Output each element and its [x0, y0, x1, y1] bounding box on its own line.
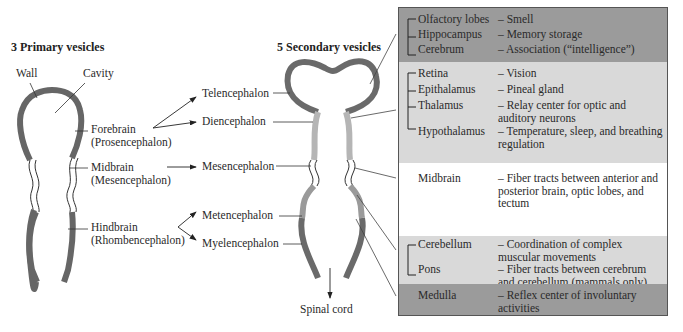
function-reflex: – Reflex center of involuntary activitie…: [498, 289, 663, 314]
cavity-label: Cavity: [83, 67, 114, 80]
midbrain-label: Midbrain: [91, 161, 134, 174]
primary-vesicle-tube: [20, 90, 81, 289]
structure-cerebrum: Cerebrum: [418, 43, 464, 56]
function-coordination: – Coordination of complex muscular movem…: [498, 238, 663, 263]
bracket-icon: [405, 18, 417, 58]
wall-label: Wall: [16, 67, 37, 80]
adult-structures-table: Olfactory lobes – Smell Hippocampus – Me…: [398, 7, 668, 316]
function-memory: – Memory storage: [498, 28, 663, 41]
section-telencephalon: Olfactory lobes – Smell Hippocampus – Me…: [399, 8, 667, 62]
structure-hypothalamus: Hypothalamus: [418, 125, 485, 138]
spinal-cord-label: Spinal cord: [300, 303, 353, 316]
hindbrain-label: Hindbrain: [91, 221, 138, 234]
function-pineal: – Pineal gland: [498, 83, 663, 96]
mesencephalon-label: Mesencephalon: [202, 160, 274, 173]
structure-hippocampus: Hippocampus: [418, 28, 482, 41]
section-myelencephalon: Medulla – Reflex center of involuntary a…: [399, 284, 667, 315]
structure-thalamus: Thalamus: [418, 99, 463, 112]
midbrain-latin-label: (Mesencephalon): [91, 174, 171, 187]
forebrain-label: Forebrain: [91, 123, 136, 136]
function-relay: – Relay center for optic and auditory ne…: [498, 99, 663, 124]
function-association: – Association (“intelligence”): [498, 43, 663, 56]
section-metencephalon: Cerebellum – Coordination of complex mus…: [399, 236, 667, 284]
myelencephalon-label: Myelencephalon: [202, 237, 279, 250]
secondary-vesicle-tube: [288, 61, 377, 278]
structure-olfactory-lobes: Olfactory lobes: [418, 13, 489, 26]
function-fiber-tracts: – Fiber tracts between anterior and post…: [498, 172, 663, 210]
structure-midbrain: Midbrain: [418, 172, 461, 185]
function-temperature: – Temperature, sleep, and breathing regu…: [498, 125, 663, 150]
section-mesencephalon: Midbrain – Fiber tracts between anterior…: [399, 163, 667, 236]
bracket-icon: [405, 72, 417, 132]
diencephalon-label: Diencephalon: [202, 115, 266, 128]
secondary-vesicles-title: 5 Secondary vesicles: [277, 40, 381, 55]
primary-vesicles-title: 3 Primary vesicles: [11, 40, 104, 55]
structure-retina: Retina: [418, 67, 448, 80]
structure-pons: Pons: [418, 263, 440, 276]
function-vision: – Vision: [498, 67, 663, 80]
metencephalon-label: Metencephalon: [202, 209, 273, 222]
bracket-icon: [405, 244, 417, 276]
structure-epithalamus: Epithalamus: [418, 83, 476, 96]
telencephalon-label: Telencephalon: [202, 87, 269, 100]
structure-medulla: Medulla: [418, 289, 456, 302]
function-smell: – Smell: [498, 13, 663, 26]
hindbrain-latin-label: (Rhombencephalon): [91, 234, 185, 247]
forebrain-latin-label: (Prosencephalon): [91, 136, 171, 149]
structure-cerebellum: Cerebellum: [418, 238, 472, 251]
section-diencephalon: Retina – Vision Epithalamus – Pineal gla…: [399, 62, 667, 163]
